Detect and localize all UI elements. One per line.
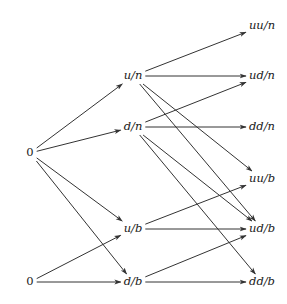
edge-root-top-to-d-b (36, 161, 126, 274)
node-dd-n: dd/n (249, 121, 275, 133)
edge-d-n-to-ud-n (145, 82, 246, 122)
edge-root-bottom-to-u-b (37, 235, 121, 278)
edge-root-top-to-d-n (37, 130, 121, 151)
node-dd-b: dd/b (249, 276, 275, 288)
node-d-n: d/n (124, 121, 143, 133)
node-uu-n: uu/n (249, 20, 275, 32)
edge-root-top-to-u-b (37, 158, 123, 221)
node-ud-b: ud/b (249, 223, 275, 235)
node-u-b: u/b (124, 223, 143, 235)
node-d-b: d/b (124, 276, 143, 288)
node-uu-b: uu/b (249, 173, 275, 185)
edge-root-top-to-u-n (37, 84, 123, 148)
edges-layer (0, 0, 287, 304)
state-transition-diagram: 00u/nd/nu/bd/buu/nud/ndd/nuu/bud/bdd/b (0, 0, 287, 304)
node-root-top: 0 (26, 147, 33, 159)
edge-u-n-to-ud-b (140, 84, 256, 221)
edge-d-n-to-ud-b (143, 135, 252, 221)
node-root-bottom: 0 (26, 276, 33, 288)
edge-u-n-to-uu-n (145, 32, 246, 71)
edges (36, 32, 255, 282)
node-u-n: u/n (124, 70, 143, 82)
edge-d-b-to-ud-b (145, 236, 246, 277)
node-ud-n: ud/n (249, 70, 275, 82)
